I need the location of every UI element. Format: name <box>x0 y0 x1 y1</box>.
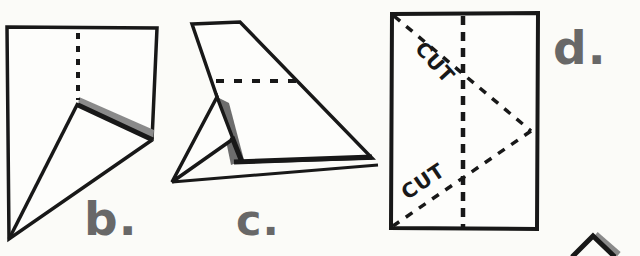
step-label-b: b. <box>84 200 138 238</box>
step-c-bottom-sheet-edge <box>172 165 378 182</box>
step-d-figure: CUT CUT <box>391 13 538 229</box>
step-c-figure <box>172 22 378 182</box>
step-label-c: c. <box>236 203 280 237</box>
step-label-d: d. <box>553 29 607 67</box>
folding-instructions-figure: CUT CUT b. c. d. <box>0 0 640 256</box>
corner-chevron-figure <box>572 234 619 256</box>
